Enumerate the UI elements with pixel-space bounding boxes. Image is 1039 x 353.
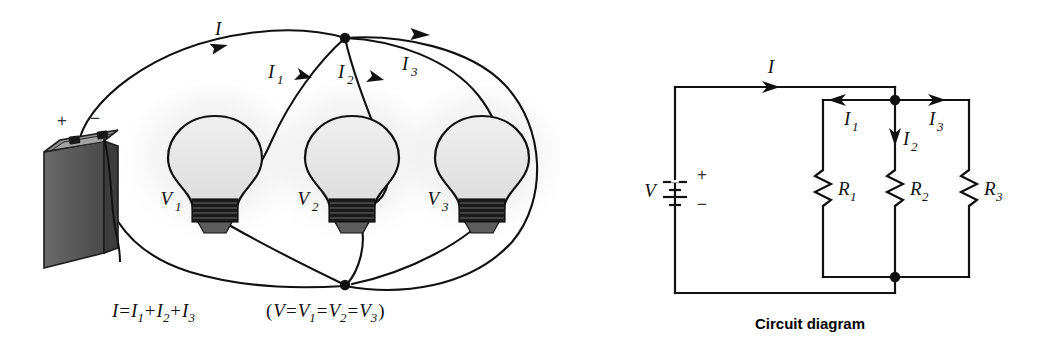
resistor-R1-zigzag [815,170,831,206]
resistor-R3-label: R [983,178,996,199]
bulb-2-label-sub: 2 [312,199,319,214]
eqn-current-plus2: + [169,300,182,321]
bulb-3-label-sub: 3 [441,199,449,214]
source-minus-sign: − [697,195,707,214]
figure-root: + − [0,0,1039,353]
junction-bottom-node [340,280,350,290]
battery-plus-label: + [57,111,67,130]
resistor-R3-label-sub: 3 [995,189,1003,204]
eqn-current-plus1: + [144,300,157,321]
eqn-current-s1: 1 [137,310,143,325]
schematic-current-I3-sub: 3 [936,119,944,134]
pictorial-current-I1-sub: 1 [277,72,284,87]
eqn-current-eq: = [118,300,131,321]
voltage-source-label: V [644,180,658,201]
junction-bottom [890,272,900,282]
schematic-current-I1-sub: 1 [852,119,859,134]
junction-top [890,95,900,105]
eqn-voltage-eq1: = [285,300,298,321]
schematic-current-I1: I [843,108,852,129]
eqn-voltage-close: ) [377,300,385,321]
eqn-voltage-t2: V [328,300,340,321]
pictorial-current-labels: I I 1 I 2 I 3 [214,18,418,87]
equation-current: I=I1+I2+I3 [112,300,195,326]
pictorial-current-I3-sub: 3 [410,64,418,79]
battery-minus-label: − [90,109,100,128]
equation-voltage: (V=V1=V2=V3) [265,300,386,326]
resistor-R2-label: R [909,178,922,199]
schematic-view: V + − I I 1 I 2 [560,0,1039,353]
pictorial-current-I1: I [267,61,276,82]
source-plus-sign: + [697,165,707,184]
eqn-voltage-t1: V [298,300,310,321]
eqn-voltage-eq2: = [316,300,329,321]
bulb-1-label-sub: 1 [175,199,182,214]
battery-terminal-plus [68,135,80,144]
pictorial-current-I3: I [401,53,410,74]
eqn-voltage-eq3: = [347,300,360,321]
schematic-arrowheads [762,81,946,146]
pictorial-current-I2-sub: 2 [347,72,354,87]
current-arrowheads [210,28,431,82]
circuit-diagram-caption: Circuit diagram [755,315,865,332]
resistor-R1-label: R [837,178,850,199]
schematic-current-I2: I [902,128,911,149]
eqn-voltage-s1: 1 [309,310,315,325]
schematic-current-I3: I [928,108,937,129]
schematic-svg: V + − I I 1 I 2 [560,0,1039,353]
junction-top-node [340,33,350,43]
eqn-voltage-lhs: V [273,300,285,321]
eqn-voltage-t3: V [359,300,371,321]
battery [44,130,120,268]
schematic-current-labels: I I 1 I 2 I 3 [767,56,944,154]
battery-terminal-minus [96,130,108,139]
resistor-R1-label-sub: 1 [850,189,857,204]
resistor-R3-zigzag [961,170,977,206]
schematic-current-I: I [767,56,776,77]
resistor-R2-zigzag [887,170,903,206]
eqn-current-s3: 3 [188,310,194,325]
schematic-current-I2-sub: 2 [911,139,918,154]
eqn-voltage-s2: 2 [340,310,346,325]
pictorial-current-I: I [214,18,223,39]
pictorial-current-I2: I [337,61,346,82]
resistor-R2-label-sub: 2 [922,189,929,204]
